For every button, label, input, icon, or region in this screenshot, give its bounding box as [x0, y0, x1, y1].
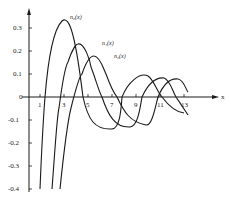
x-tick-label: 3 [62, 101, 66, 109]
x-tick-label: 1 [38, 101, 42, 109]
x-tick-label: 13 [181, 101, 189, 109]
y-tick-label: 0.3 [13, 24, 22, 32]
y-tick-label: 0.2 [13, 47, 22, 55]
y-tick-label: -0.4 [8, 185, 20, 193]
y-axis [27, 8, 31, 192]
y-tick-label: 0.1 [13, 70, 22, 78]
curve-1-label: n₀(x) [70, 14, 82, 21]
y-tick-label: -0.2 [8, 139, 20, 147]
x-tick-label: 5 [86, 101, 90, 109]
x-tick-label: 11 [157, 101, 164, 109]
x-tick-label: 9 [134, 101, 138, 109]
y-axis-arrow-icon [27, 8, 31, 15]
curve-2-label: n₁(x) [102, 40, 114, 47]
x-axis-label: x [221, 93, 225, 101]
y-tick-label: -0.1 [8, 116, 20, 124]
curve-3-label: n₂(x) [114, 53, 126, 60]
curve-3 [60, 56, 188, 189]
x-tick-label: 7 [110, 101, 114, 109]
y-tick-label: 0 [19, 93, 23, 101]
y-tick-labels: 0.3 0.2 0.1 0 -0.1 -0.2 -0.3 -0.4 [8, 24, 23, 193]
x-tick-labels: 1 3 5 7 9 11 13 x [38, 93, 225, 109]
x-axis-arrow-icon [212, 95, 219, 99]
y-tick-label: -0.3 [8, 162, 20, 170]
x-axis [22, 95, 219, 99]
chart-canvas: 0.3 0.2 0.1 0 -0.1 -0.2 -0.3 -0.4 1 3 5 … [0, 0, 231, 205]
